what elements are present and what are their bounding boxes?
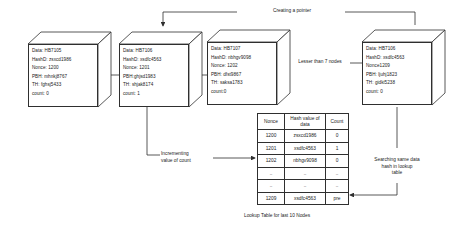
annotation-searching-line-2: hash in lookup — [356, 164, 438, 171]
lookup-header-nonce: Nonce — [258, 114, 285, 130]
diagram-canvas: Data: HB7105 HashD: zsxcd1986 Nonce: 120… — [0, 0, 455, 231]
table-row[interactable]: 1209 xsdfc4563 pre — [258, 192, 349, 205]
node-3-text: Data: HB7107 HashD: nbhgv9098 Nonce: 120… — [211, 45, 277, 97]
cell-nonce: 1209 — [258, 192, 285, 205]
node-4-line-count: count: 0 — [366, 88, 432, 97]
table-row[interactable]: 1202 nbhgv9098 0 — [258, 155, 349, 168]
node-4-line-th: TH: gidki5238 — [366, 79, 432, 88]
node-4-line-hashd: HashD: xsdfc4563 — [366, 54, 432, 63]
cell-hash: .. — [285, 180, 326, 193]
node-2-line-pbh: PBH:ghjsd1983 — [123, 73, 189, 82]
node-3-line-count: count:0 — [211, 88, 277, 97]
connector-incrementing — [147, 107, 160, 155]
cell-hash: xsdfc4563 — [285, 192, 326, 205]
cell-hash: xsdfc4563 — [285, 142, 326, 155]
lookup-table-header-row: Nonce Hash value of data Count — [258, 114, 349, 130]
cell-count: pre — [326, 192, 349, 205]
node-2-line-count: count: 1 — [123, 90, 189, 99]
cell-count: .. — [326, 180, 349, 193]
table-row[interactable]: 1200 zsxcd1986 0 — [258, 130, 349, 143]
cell-nonce: 1201 — [258, 142, 285, 155]
node-2-text: Data: HB7106 HashD: xsdfc4563 Nonce: 120… — [123, 47, 189, 99]
cell-nonce: .. — [258, 180, 285, 193]
node-2-line-hashd: HashD: xsdfc4563 — [123, 56, 189, 65]
lookup-header-hash: Hash value of data — [285, 114, 326, 130]
node-3-line-hashd: HashD: nbhgv9098 — [211, 54, 277, 63]
node-1-line-pbh: PBH: mhnkj8767 — [32, 73, 98, 82]
node-3-line-data: Data: HB7107 — [211, 45, 277, 54]
cell-count: 0 — [326, 155, 349, 168]
node-1-line-count: count: 0 — [32, 90, 98, 99]
node-1-line-nonce: Nonce: 1200 — [32, 64, 98, 73]
node-4-line-data: Data: HB7106 — [366, 45, 432, 54]
cell-hash: .. — [285, 167, 326, 180]
cell-count: 1 — [326, 142, 349, 155]
lookup-header-count: Count — [326, 114, 349, 130]
node-2-line-data: Data: HB7106 — [123, 47, 189, 56]
lookup-table[interactable]: Nonce Hash value of data Count 1200 zsxc… — [257, 113, 349, 205]
node-1-line-th: TH: fghsj5433 — [32, 81, 98, 90]
lookup-table-caption: Lookup Table for last 10 Nodes — [244, 213, 310, 218]
cell-nonce: 1200 — [258, 130, 285, 143]
node-1-text: Data: HB7105 HashD: zsxcd1986 Nonce: 120… — [32, 47, 98, 99]
cell-hash: nbhgv9098 — [285, 155, 326, 168]
node-1-line-data: Data: HB7105 — [32, 47, 98, 56]
table-row[interactable]: 1201 xsdfc4563 1 — [258, 142, 349, 155]
annotation-searching-line-3: table — [356, 170, 438, 177]
node-2-line-nonce: Nonce: 1201 — [123, 64, 189, 73]
annotation-searching-line-1: Searching same data — [356, 157, 438, 164]
connector-creating-pointer-left — [163, 12, 237, 26]
table-row[interactable]: .. .. .. — [258, 167, 349, 180]
node-3-line-th: TH: saksa1783 — [211, 79, 277, 88]
annotation-incrementing-line-2: value of count — [161, 158, 213, 165]
cell-count: .. — [326, 167, 349, 180]
node-3-line-nonce: Nonce: 1202 — [211, 62, 277, 71]
node-4-line-pbh: PBH: ljuhj1823 — [366, 71, 432, 80]
connector-creating-pointer-right — [345, 12, 415, 25]
annotation-creating-pointer: Creating a pointer — [240, 8, 344, 15]
cell-nonce: .. — [258, 167, 285, 180]
cell-nonce: 1202 — [258, 155, 285, 168]
annotation-incrementing-value: Incrementing value of count — [161, 151, 213, 164]
annotation-searching-hash: Searching same data hash in lookup table — [356, 157, 438, 177]
lookup-header-hash-line-1: Hash value of — [285, 116, 325, 121]
cell-hash: zsxcd1986 — [285, 130, 326, 143]
lookup-header-hash-line-2: data — [285, 122, 325, 127]
table-row[interactable]: .. .. .. — [258, 180, 349, 193]
node-1-line-hashd: HashD: zsxcd1986 — [32, 56, 98, 65]
node-4-line-nonce: Nonce1209 — [366, 62, 432, 71]
connector-searching-to-table — [350, 183, 397, 195]
annotation-incrementing-line-1: Incrementing — [161, 151, 213, 158]
cell-count: 0 — [326, 130, 349, 143]
node-4-text: Data: HB7106 HashD: xsdfc4563 Nonce1209 … — [366, 45, 432, 97]
node-3-line-pbh: PBH: dfst9867 — [211, 71, 277, 80]
annotation-lesser-than-7-nodes: Lesser than 7 nodes — [290, 59, 350, 66]
node-2-line-th: TH: shjak8174 — [123, 81, 189, 90]
